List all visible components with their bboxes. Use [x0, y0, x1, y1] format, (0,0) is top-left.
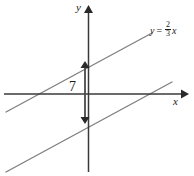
- equation-fraction: 23: [165, 21, 171, 39]
- line-equation-label: y=23x: [150, 21, 177, 39]
- y-axis-arrowhead: [84, 5, 93, 13]
- y-axis-label: y: [76, 2, 81, 13]
- x-axis-arrowhead: [181, 90, 189, 99]
- equation-denominator: 3: [165, 30, 171, 38]
- upper-line: [6, 33, 152, 112]
- distance-value-label: 7: [69, 80, 76, 94]
- equation-variable: x: [172, 25, 176, 36]
- equation-equals-sign: =: [156, 25, 162, 36]
- x-axis-label: x: [173, 96, 178, 107]
- equation-lhs: y: [150, 25, 154, 36]
- line-graph-figure: y x 7 y=23x: [0, 0, 194, 176]
